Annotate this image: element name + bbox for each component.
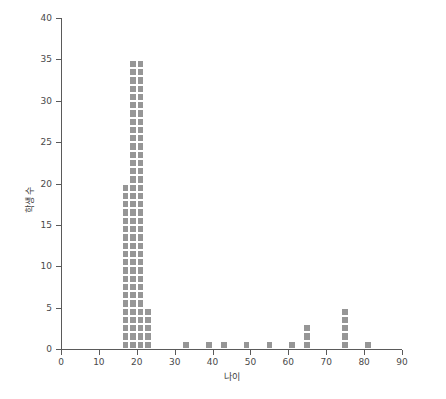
bar-unit-cell	[303, 341, 311, 349]
bar-unit-cell	[144, 324, 152, 332]
bar-unit-cell	[137, 250, 145, 258]
bar-unit-cell	[122, 266, 130, 274]
x-tick-mark	[288, 350, 289, 355]
bar-unit-cell	[137, 316, 145, 324]
bar-unit-cell	[122, 283, 130, 291]
bar-unit-cell	[144, 341, 152, 349]
x-tick-mark	[213, 350, 214, 355]
bar-unit-cell	[137, 200, 145, 208]
bar-unit-cell	[129, 126, 137, 134]
bar-unit-cell	[129, 291, 137, 299]
bar-unit-cell	[137, 283, 145, 291]
bar-unit-cell	[122, 316, 130, 324]
bar-unit-cell	[129, 283, 137, 291]
x-tick-label: 60	[283, 358, 294, 367]
bar-unit-cell	[137, 118, 145, 126]
histogram-bar	[144, 308, 152, 349]
bar-unit-cell	[129, 200, 137, 208]
bar-unit-cell	[122, 341, 130, 349]
bar-unit-cell	[122, 308, 130, 316]
bar-unit-cell	[122, 192, 130, 200]
bar-unit-cell	[341, 316, 349, 324]
histogram-bar	[205, 341, 213, 349]
bar-unit-cell	[137, 225, 145, 233]
x-axis-title: 나이	[61, 370, 402, 383]
bar-unit-cell	[122, 225, 130, 233]
bar-unit-cell	[122, 200, 130, 208]
x-tick-label: 70	[320, 358, 331, 367]
bar-unit-cell	[129, 142, 137, 150]
histogram-bar	[266, 341, 274, 349]
bar-unit-cell	[122, 184, 130, 192]
x-tick-mark	[137, 350, 138, 355]
bar-unit-cell	[122, 324, 130, 332]
bar-unit-cell	[129, 332, 137, 340]
bar-unit-cell	[122, 242, 130, 250]
bar-unit-cell	[137, 159, 145, 167]
bar-unit-cell	[303, 332, 311, 340]
bar-unit-cell	[137, 324, 145, 332]
x-tick-mark	[326, 350, 327, 355]
bar-unit-cell	[137, 175, 145, 183]
bar-unit-cell	[129, 233, 137, 241]
bar-unit-cell	[137, 68, 145, 76]
histogram-bar	[182, 341, 190, 349]
y-tick-label: 0	[46, 345, 52, 354]
bar-unit-cell	[129, 324, 137, 332]
x-tick-label: 20	[131, 358, 142, 367]
bar-unit-cell	[129, 109, 137, 117]
bar-unit-cell	[137, 109, 145, 117]
bar-unit-cell	[129, 159, 137, 167]
bar-unit-cell	[129, 85, 137, 93]
bar-unit-cell	[341, 308, 349, 316]
bar-unit-cell	[182, 341, 190, 349]
bar-unit-cell	[129, 258, 137, 266]
bar-unit-cell	[129, 175, 137, 183]
bar-unit-cell	[137, 126, 145, 134]
bar-unit-cell	[122, 217, 130, 225]
bar-unit-cell	[137, 142, 145, 150]
bar-unit-cell	[137, 291, 145, 299]
x-tick-mark	[99, 350, 100, 355]
bar-unit-cell	[129, 217, 137, 225]
bar-unit-cell	[288, 341, 296, 349]
y-axis: 0510152025303540	[0, 18, 61, 349]
bar-unit-cell	[144, 308, 152, 316]
bar-unit-cell	[129, 299, 137, 307]
x-tick-mark	[61, 350, 62, 355]
bar-unit-cell	[122, 233, 130, 241]
bar-unit-cell	[137, 93, 145, 101]
x-tick-label: 90	[396, 358, 407, 367]
bar-unit-cell	[266, 341, 274, 349]
bar-unit-cell	[122, 332, 130, 340]
x-tick-mark	[364, 350, 365, 355]
x-tick-label: 0	[58, 358, 64, 367]
bar-unit-cell	[122, 258, 130, 266]
bar-unit-cell	[137, 134, 145, 142]
bar-unit-cell	[129, 208, 137, 216]
bar-unit-cell	[129, 151, 137, 159]
bar-unit-cell	[303, 324, 311, 332]
histogram-bar	[122, 184, 130, 350]
bar-unit-cell	[364, 341, 372, 349]
bar-unit-cell	[341, 332, 349, 340]
bar-unit-cell	[129, 118, 137, 126]
histogram-bar	[220, 341, 228, 349]
bar-unit-cell	[129, 266, 137, 274]
histogram-bar	[288, 341, 296, 349]
bar-unit-cell	[137, 217, 145, 225]
x-tick-label: 30	[169, 358, 180, 367]
bar-unit-cell	[129, 93, 137, 101]
bar-unit-cell	[137, 233, 145, 241]
x-tick-label: 40	[207, 358, 218, 367]
bar-unit-cell	[129, 242, 137, 250]
bar-unit-cell	[129, 76, 137, 84]
histogram-bar	[364, 341, 372, 349]
bar-unit-cell	[137, 184, 145, 192]
histogram-bar	[137, 59, 145, 349]
bar-unit-cell	[129, 184, 137, 192]
bar-unit-cell	[122, 275, 130, 283]
bar-unit-cell	[137, 208, 145, 216]
bar-unit-cell	[129, 167, 137, 175]
bar-unit-cell	[129, 192, 137, 200]
